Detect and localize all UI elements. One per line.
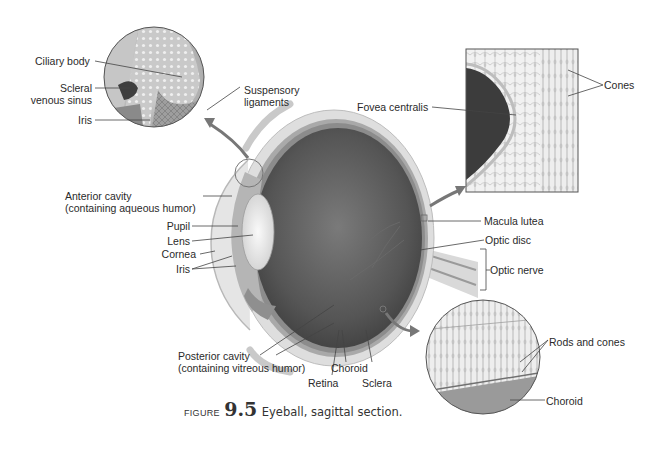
figure-caption: FIGURE 9.5 Eyeball, sagittal section. (184, 398, 403, 420)
caption-prefix: FIGURE (184, 408, 220, 418)
label-posterior-line2: (containing vitreous humor) (178, 362, 305, 374)
caption-number: 9.5 (224, 398, 257, 420)
label-optic-nerve: Optic nerve (490, 264, 544, 276)
label-choroid: Choroid (331, 362, 368, 374)
label-pupil: Pupil (130, 220, 190, 232)
fovea-inset (466, 49, 578, 192)
label-scleral-line1: Scleral (60, 82, 92, 94)
label-posterior-cavity: Posterior cavity (containing vitreous hu… (178, 350, 305, 374)
label-retina: Retina (308, 377, 338, 389)
label-cornea: Cornea (130, 248, 196, 260)
label-anterior-line2: (containing aqueous humor) (65, 202, 196, 214)
ciliary-inset (100, 20, 210, 140)
label-scleral-venous-sinus: Scleral venous sinus (30, 82, 92, 106)
label-suspensory-ligaments: Suspensory ligaments (244, 84, 299, 108)
label-sclera: Sclera (362, 377, 392, 389)
label-iris-inset: Iris (78, 114, 92, 126)
label-choroid-inset: Choroid (546, 395, 583, 407)
label-optic-disc: Optic disc (485, 234, 531, 246)
label-anterior-line1: Anterior cavity (65, 190, 132, 202)
label-posterior-line1: Posterior cavity (178, 350, 250, 362)
label-macula-lutea: Macula lutea (484, 215, 544, 227)
label-scleral-line2: venous sinus (31, 94, 92, 106)
retina-inset (420, 300, 550, 420)
label-lens: Lens (130, 235, 190, 247)
caption-text: Eyeball, sagittal section. (262, 405, 403, 419)
label-anterior-cavity: Anterior cavity (containing aqueous humo… (65, 190, 196, 214)
label-iris: Iris (130, 263, 190, 275)
label-rods-and-cones: Rods and cones (549, 336, 625, 348)
label-suspensory-line2: ligaments (244, 96, 289, 108)
label-cones: Cones (604, 79, 634, 91)
label-fovea-centralis: Fovea centralis (357, 101, 428, 113)
label-suspensory-line1: Suspensory (244, 84, 299, 96)
label-ciliary-body: Ciliary body (35, 55, 90, 67)
